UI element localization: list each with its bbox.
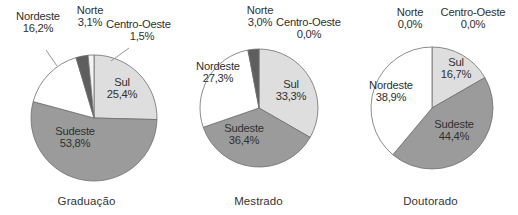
slice-label-norte: Norte 0,0% xyxy=(384,6,436,30)
leader-line-nordeste xyxy=(46,50,57,66)
pie-chart-graduacao: Nordeste 16,2% Norte 3,1% Centro-Oeste 1… xyxy=(0,0,173,215)
chart-caption-mestrado: Mestrado xyxy=(172,195,345,207)
slice-label-sul: Sul 16,7% xyxy=(428,56,484,80)
pie-chart-figure: Nordeste 16,2% Norte 3,1% Centro-Oeste 1… xyxy=(0,0,518,215)
leader-line-centro-oeste xyxy=(111,48,129,61)
slice-label-sudeste: Sudeste 36,4% xyxy=(208,122,280,146)
pie-slices-graduacao xyxy=(31,55,157,181)
slice-label-sudeste: Sudeste 44,4% xyxy=(417,118,491,142)
pie-chart-mestrado: Norte 3,0% Centro-Oeste 0,0% Nordeste 27… xyxy=(172,0,345,215)
pie-chart-doutorado: Norte 0,0% Centro-Oeste 0,0% Nordeste 38… xyxy=(344,0,517,215)
slice-label-nordeste: Nordeste 27,3% xyxy=(182,60,254,84)
slice-label-sul: Sul 25,4% xyxy=(95,76,149,100)
slice-label-sul: Sul 33,3% xyxy=(263,78,319,102)
slice-label-centro-oeste: Centro-Oeste 0,0% xyxy=(432,6,514,30)
slice-label-nordeste: Nordeste 38,9% xyxy=(353,79,429,103)
chart-caption-graduacao: Graduação xyxy=(0,195,173,207)
chart-caption-doutorado: Doutorado xyxy=(344,195,517,207)
slice-label-sudeste: Sudeste 53,8% xyxy=(39,125,111,149)
